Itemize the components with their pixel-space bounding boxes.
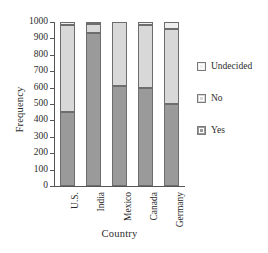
legend-item-no[interactable]: No: [197, 88, 252, 99]
y-tick-label: 600: [34, 83, 48, 93]
bar-segment-no: [112, 22, 127, 86]
bar-mexico[interactable]: [112, 22, 127, 186]
bar-segment-yes: [138, 88, 153, 186]
y-tick-mark: [50, 120, 54, 121]
x-tick-label-us: U.S.: [71, 192, 81, 209]
y-tick-label: 200: [34, 148, 48, 158]
x-tick-label-canada: Canada: [150, 192, 160, 221]
legend-item-yes[interactable]: Yes: [197, 120, 252, 131]
bar-segment-no: [60, 25, 75, 112]
legend-label: No: [211, 93, 223, 103]
x-axis-title: Country: [54, 228, 185, 239]
bar-segment-yes: [60, 112, 75, 186]
x-tick-label-germany: Germany: [176, 192, 186, 227]
bar-india[interactable]: [86, 22, 101, 186]
y-tick-label: 0: [43, 181, 48, 191]
y-tick-label: 500: [34, 99, 48, 109]
y-tick-label: 700: [34, 66, 48, 76]
bar-us[interactable]: [60, 22, 75, 186]
bar-segment-undecided: [164, 22, 179, 29]
legend-swatch-no: [197, 94, 206, 103]
y-tick-mark: [50, 137, 54, 138]
bar-segment-no: [138, 25, 153, 87]
y-tick-label: 900: [34, 34, 48, 44]
bar-segment-yes: [112, 86, 127, 186]
y-tick-label: 100: [34, 165, 48, 175]
legend-swatch-undecided: [197, 62, 206, 71]
y-tick-mark: [50, 104, 54, 105]
chart-legend: UndecidedNoYes: [197, 56, 252, 152]
legend-swatch-yes: [197, 126, 206, 135]
y-tick-mark: [50, 22, 54, 23]
bar-segment-undecided: [138, 22, 153, 25]
y-tick-label: 400: [34, 116, 48, 126]
bar-segment-yes: [164, 104, 179, 186]
y-tick-mark: [50, 88, 54, 89]
bar-segment-undecided: [86, 22, 101, 24]
bar-germany[interactable]: [164, 22, 179, 186]
legend-label: Undecided: [211, 61, 252, 71]
y-tick-label: 300: [34, 132, 48, 142]
y-axis-line: [54, 22, 55, 186]
bar-segment-no: [86, 24, 101, 33]
y-tick-mark: [50, 170, 54, 171]
y-tick-mark: [50, 55, 54, 56]
bar-canada[interactable]: [138, 22, 153, 186]
stacked-bar-chart: Frequency 010020030040050060070080090010…: [0, 0, 268, 253]
legend-item-undecided[interactable]: Undecided: [197, 56, 252, 67]
y-tick-mark: [50, 153, 54, 154]
y-tick-label: 1000: [29, 17, 48, 27]
x-axis-line: [54, 186, 185, 187]
y-tick-mark: [50, 71, 54, 72]
x-tick-label-india: India: [97, 192, 107, 212]
y-tick-mark: [50, 186, 54, 187]
y-tick-label: 800: [34, 50, 48, 60]
y-axis-title: Frequency: [14, 55, 25, 165]
bar-segment-no: [164, 29, 179, 104]
x-tick-label-mexico: Mexico: [124, 192, 134, 221]
legend-label: Yes: [211, 125, 225, 135]
bar-segment-yes: [86, 33, 101, 186]
plot-area: 01002003004005006007008009001000 U.S.Ind…: [54, 22, 185, 186]
y-tick-mark: [50, 38, 54, 39]
bar-segment-undecided: [60, 22, 75, 25]
